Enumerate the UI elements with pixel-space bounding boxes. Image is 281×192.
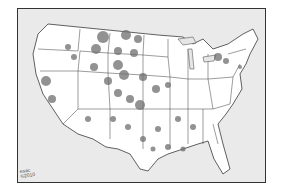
- map-frame: esac ©2010: [17, 8, 266, 183]
- us-map: [18, 9, 266, 183]
- map-credit: esac ©2010: [19, 167, 35, 179]
